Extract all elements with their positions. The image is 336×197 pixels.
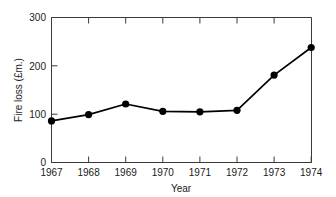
data-point-1971 <box>196 108 203 115</box>
plot-frame <box>52 18 312 163</box>
data-point-1974 <box>308 44 315 51</box>
series-line-fire-loss <box>52 48 312 121</box>
data-point-1973 <box>271 72 278 79</box>
y-tick-label-200: 200 <box>29 61 46 72</box>
x-tick-label-1973: 1973 <box>263 167 286 178</box>
y-tick-label-100: 100 <box>29 109 46 120</box>
data-point-1969 <box>122 100 129 107</box>
chart-canvas: 300 200 100 0 1967 <box>0 0 336 197</box>
data-point-1970 <box>159 108 166 115</box>
data-point-1967 <box>48 117 55 124</box>
x-tick-label-1972: 1972 <box>226 167 249 178</box>
x-tick-label-1969: 1969 <box>115 167 138 178</box>
x-tick-label-1970: 1970 <box>152 167 175 178</box>
x-tick-marks-bottom <box>52 157 312 163</box>
x-tick-label-1971: 1971 <box>189 167 212 178</box>
data-series-fire-loss <box>48 44 315 125</box>
x-tick-marks-top <box>52 18 275 24</box>
x-axis-title: Year <box>171 183 192 194</box>
x-tick-label-1967: 1967 <box>40 167 63 178</box>
x-tick-label-1974: 1974 <box>300 167 323 178</box>
x-tick-label-1968: 1968 <box>77 167 100 178</box>
x-tick-labels: 1967 1968 1969 1970 1971 1972 1973 1974 <box>40 167 322 178</box>
y-tick-marks <box>52 18 58 163</box>
y-tick-labels: 300 200 100 0 <box>29 12 46 168</box>
data-point-1968 <box>85 111 92 118</box>
y-tick-label-300: 300 <box>29 12 46 23</box>
y-axis-title: Fire loss (£m.) <box>13 58 24 122</box>
fire-loss-line-chart: 300 200 100 0 1967 <box>0 0 336 197</box>
data-point-1972 <box>233 107 240 114</box>
